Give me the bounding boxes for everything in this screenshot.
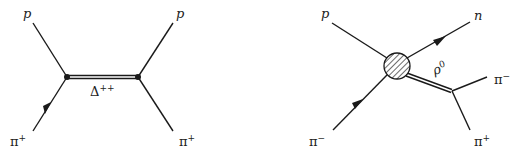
label-p-out: p xyxy=(176,6,185,21)
label-pi-minus-in: π− xyxy=(309,133,325,149)
label-pi-plus-decay: π+ xyxy=(474,133,490,149)
decay-pi-minus-line xyxy=(452,77,487,91)
label-pi-plus-out: π+ xyxy=(179,133,195,149)
hatched-blob-icon xyxy=(384,53,410,79)
arrow-icon xyxy=(352,99,363,109)
incoming-proton-line xyxy=(332,23,387,58)
outgoing-proton-line xyxy=(138,23,173,77)
rho-propagator-line-bottom xyxy=(406,76,451,93)
diagram-delta-resonance: p p π+ π+ Δ++ xyxy=(10,6,195,149)
vertex-dot xyxy=(135,74,141,80)
feynman-diagrams: p p π+ π+ Δ++ p n π− π− π+ ρ0 xyxy=(0,0,517,152)
arrow-icon xyxy=(433,36,446,46)
incoming-proton-line xyxy=(33,23,67,77)
label-p-in: p xyxy=(321,6,330,21)
label-pi-plus-in: π+ xyxy=(10,133,26,149)
decay-pi-plus-line xyxy=(452,91,470,130)
label-rho: ρ0 xyxy=(429,58,448,78)
rho-propagator-line-top xyxy=(407,73,452,90)
label-pi-minus-decay: π− xyxy=(494,71,510,87)
diagram-rho-production: p n π− π− π+ ρ0 xyxy=(309,6,510,149)
vertex-dot xyxy=(64,74,70,80)
label-n-out: n xyxy=(474,8,482,23)
outgoing-pion-line xyxy=(138,77,173,131)
label-delta: Δ++ xyxy=(90,83,114,99)
label-p-in: p xyxy=(23,6,32,21)
